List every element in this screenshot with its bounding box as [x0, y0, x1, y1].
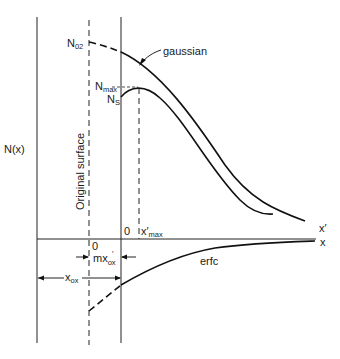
ns-label: NS [107, 93, 120, 107]
gaussian-label: gaussian [163, 45, 207, 57]
origin-old-label: 0 [92, 240, 98, 252]
xox-arrowhead-right [115, 276, 121, 281]
mxox-prime-mark: ′ [112, 249, 114, 258]
diffusion-profile-diagram: N(x) Original surface N02 Nmax NS gaussi… [0, 0, 340, 359]
redistributed-profile-curve [121, 88, 273, 214]
gaussian-curve-dashed [89, 42, 121, 52]
origin-new-label: 0 [124, 225, 130, 237]
n02-label: N02 [67, 37, 83, 51]
xox-label: xox [65, 271, 79, 285]
erfc-curve-dashed [89, 285, 121, 311]
x-label: x [320, 236, 326, 248]
mxox-arrowhead-right [121, 255, 127, 260]
x-prime-max-label: x′max [141, 225, 163, 239]
xox-arrowhead-left [38, 276, 44, 281]
erfc-label: erfc [200, 255, 219, 267]
x-prime-label: x′ [319, 222, 327, 234]
gaussian-curve [121, 52, 305, 221]
original-surface-label: Original surface [74, 133, 86, 210]
nmax-label: Nmax [95, 80, 117, 94]
y-axis-label: N(x) [4, 143, 25, 155]
mxox-arrowhead-left [83, 255, 89, 260]
